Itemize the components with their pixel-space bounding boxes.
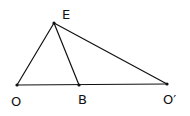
point-E	[52, 21, 55, 24]
label-E: E	[62, 7, 70, 22]
label-O: O	[11, 94, 21, 109]
label-B: B	[78, 92, 87, 107]
label-Oprime: O′	[163, 92, 176, 107]
point-Oprime	[165, 82, 168, 85]
segment-O-E	[17, 23, 54, 85]
point-O	[15, 83, 18, 86]
triangle-diagram: E O B O′	[0, 0, 190, 116]
segment-E-Oprime	[54, 23, 167, 84]
segment-E-B	[54, 23, 79, 85]
segment-O-Oprime	[17, 84, 167, 85]
point-B	[77, 83, 80, 86]
